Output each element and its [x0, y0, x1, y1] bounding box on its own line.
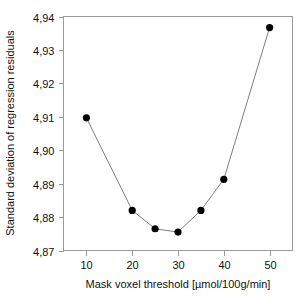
data-point — [174, 229, 181, 236]
data-point — [197, 207, 204, 214]
y-axis-title: Standard deviation of regression residua… — [4, 30, 16, 236]
y-axis-tick-label: 4,90 — [33, 145, 54, 157]
x-axis-tick-label: 20 — [126, 259, 138, 271]
y-axis-tick-label: 4,91 — [33, 112, 54, 124]
chart-figure: 4,874,884,894,904,914,924,934,94 1020304… — [0, 0, 303, 296]
data-point — [266, 24, 273, 31]
y-axis-tick-label: 4,94 — [33, 12, 54, 24]
y-axis-tick-label: 4,93 — [33, 45, 54, 57]
data-point — [129, 207, 136, 214]
x-axis-tick-label: 10 — [80, 259, 92, 271]
y-axis-tick-label: 4,92 — [33, 78, 54, 90]
y-axis-tick-label: 4,87 — [33, 246, 54, 258]
x-axis-tick-label: 40 — [218, 259, 230, 271]
x-axis-title: Mask voxel threshold [µmol/100g/min] — [86, 278, 271, 290]
line-chart: 4,874,884,894,904,914,924,934,94 1020304… — [0, 0, 303, 296]
y-axis-tick-label: 4,88 — [33, 212, 54, 224]
x-axis-tick-label: 30 — [172, 259, 184, 271]
y-axis-tick-label: 4,89 — [33, 179, 54, 191]
x-axis-tick-label: 50 — [264, 259, 276, 271]
data-point — [83, 114, 90, 121]
data-point — [220, 176, 227, 183]
data-point — [152, 225, 159, 232]
